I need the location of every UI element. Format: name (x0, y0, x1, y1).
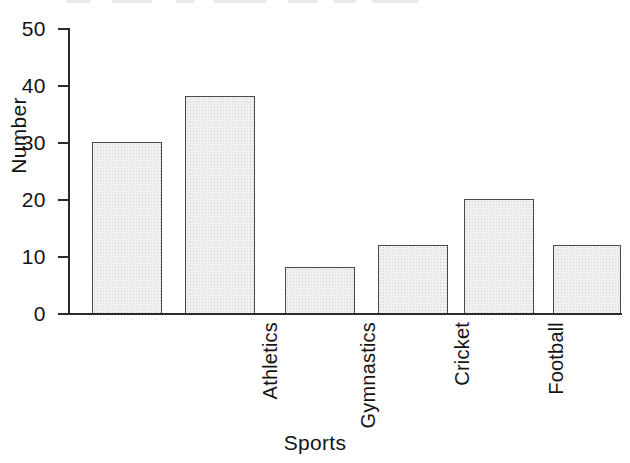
y-tick-mark-40 (58, 85, 68, 87)
y-tick-label-50: 50 (0, 18, 46, 39)
y-tick-label-0: 0 (0, 303, 46, 324)
bar-cricket (285, 267, 355, 313)
bar-other (553, 245, 621, 313)
bar-gymnastics (185, 96, 255, 313)
bar-chart-figure: 0 10 20 30 40 50 Athletics Gymnastics Cr… (0, 0, 630, 463)
y-tick-label-10: 10 (0, 246, 46, 267)
y-tick-mark-20 (58, 199, 68, 201)
bar-hockey (464, 199, 534, 313)
x-axis-title: Sports (0, 432, 630, 453)
y-tick-mark-30 (58, 142, 68, 144)
x-axis-line (68, 313, 622, 315)
y-tick-mark-50 (58, 28, 68, 30)
y-axis-title: Number (8, 76, 29, 196)
y-axis-line (68, 28, 70, 315)
y-tick-mark-10 (58, 256, 68, 258)
bar-athletics (92, 142, 162, 313)
scan-artifact (0, 0, 630, 5)
bar-football (378, 245, 448, 313)
y-tick-mark-0 (58, 313, 68, 315)
